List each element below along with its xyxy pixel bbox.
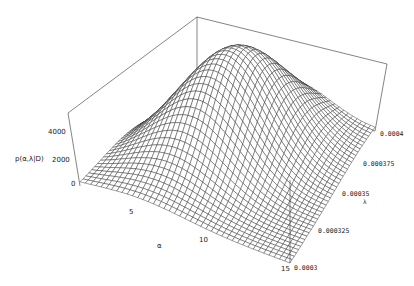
x-tick-5: 5 xyxy=(129,209,133,216)
y-tick-0.000375: 0.000375 xyxy=(363,161,394,168)
z-axis-label: p(α,λ|D) xyxy=(15,156,44,163)
x-tick-10: 10 xyxy=(199,237,208,244)
y-tick-0.00035: 0.00035 xyxy=(342,191,369,198)
y-tick-0.0004: 0.0004 xyxy=(380,131,403,138)
z-tick-0: 0 xyxy=(71,181,75,188)
y-axis-label: λ xyxy=(363,199,367,205)
z-tick-2000: 2000 xyxy=(52,157,70,164)
y-tick-0.000325: 0.000325 xyxy=(318,228,349,235)
x-axis-label: α xyxy=(157,243,162,250)
x-tick-15: 15 xyxy=(281,266,290,273)
z-tick-4000: 4000 xyxy=(48,129,66,136)
y-tick-0.0003: 0.0003 xyxy=(294,265,317,272)
